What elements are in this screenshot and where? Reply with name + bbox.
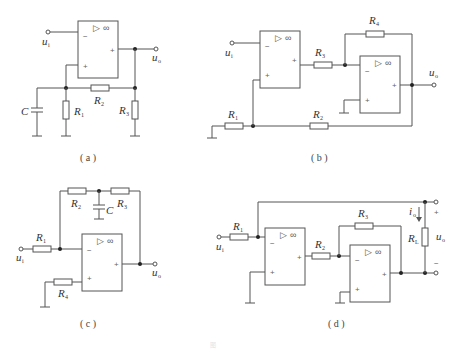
svg-text:1: 1 (43, 238, 46, 244)
svg-text:i: i (231, 53, 233, 59)
svg-text:+: + (434, 208, 439, 217)
panel-c: R 2 R 3 C R 1 u i ▷ ∞ − + + u o R 4 ( (16, 188, 161, 330)
label-r2-a: R (93, 94, 101, 106)
svg-text:∞: ∞ (385, 58, 391, 68)
panel-b: ▷ ∞ − + + u i R 3 R 4 ▷ ∞ − + + u (207, 14, 438, 164)
resistor-r2-c (68, 188, 86, 194)
circuit-figure: ▷ ∞ − + + u i u o R 2 C (0, 0, 456, 351)
label-r3-a: R (118, 104, 126, 116)
caption-d: ( d ) (328, 318, 345, 330)
svg-text:o: o (442, 237, 445, 243)
svg-text:o: o (158, 58, 161, 64)
svg-text:R: R (314, 238, 322, 250)
resistor-rl-d (422, 228, 428, 246)
resistor-r3-b (314, 62, 332, 68)
svg-text:−: − (365, 67, 370, 76)
current-arrow-icon (416, 217, 422, 222)
svg-text:−: − (265, 42, 270, 51)
svg-text:2: 2 (78, 204, 81, 210)
svg-text:+: + (265, 71, 270, 80)
input-terminal-b (230, 41, 234, 45)
figure-caption-faint: 图 (210, 342, 216, 349)
svg-text:▷: ▷ (97, 236, 104, 246)
svg-text:o: o (435, 73, 438, 79)
svg-text:i: i (409, 205, 412, 217)
input-terminal-d (217, 235, 221, 239)
svg-text:+: + (355, 285, 360, 294)
svg-text:o: o (158, 273, 161, 279)
svg-text:2: 2 (101, 101, 104, 107)
svg-text:i: i (222, 247, 224, 253)
svg-text:L: L (415, 239, 419, 245)
svg-text:▷: ▷ (375, 58, 382, 68)
svg-text:−: − (87, 246, 92, 255)
opamp-a-symbol: ▷ (93, 23, 100, 33)
svg-text:R: R (232, 220, 240, 232)
resistor-r4-c (54, 279, 72, 285)
resistor-r3-a (132, 101, 138, 119)
input-terminal-a (46, 30, 50, 34)
svg-text:R: R (116, 197, 124, 209)
svg-text:1: 1 (235, 115, 238, 121)
resistor-r3-d (355, 223, 373, 229)
svg-text:+: + (392, 81, 397, 90)
svg-text:+: + (292, 56, 297, 65)
svg-text:R: R (35, 231, 43, 243)
label-c-c: C (106, 204, 114, 216)
svg-text:∞: ∞ (285, 33, 291, 43)
opamp-a-gain: ∞ (103, 23, 109, 33)
svg-text:2: 2 (322, 245, 325, 251)
output-terminal-b (432, 83, 436, 87)
caption-c: ( c ) (80, 318, 96, 330)
resistor-r1-b (225, 123, 243, 129)
output-plus-terminal-d (434, 200, 438, 204)
svg-text:1: 1 (240, 227, 243, 233)
resistor-r3-c (111, 188, 129, 194)
panel-a: ▷ ∞ − + + u i u o R 2 C (21, 21, 161, 164)
svg-text:R: R (314, 46, 322, 58)
resistor-r2-a (91, 85, 109, 91)
svg-text:4: 4 (65, 294, 68, 300)
resistor-r1-c (33, 246, 51, 252)
svg-text:2: 2 (320, 115, 323, 121)
opamp-a-out-sign: + (110, 46, 115, 55)
output-minus-terminal-d (434, 271, 438, 275)
svg-text:o: o (413, 212, 416, 218)
svg-text:+: + (87, 274, 92, 283)
svg-text:3: 3 (322, 53, 325, 59)
resistor-r1-d (230, 234, 248, 240)
svg-text:R: R (357, 207, 365, 219)
svg-text:4: 4 (376, 21, 379, 27)
label-r1-a: R (73, 105, 81, 117)
svg-text:R: R (407, 232, 415, 244)
opamp-a-minus: − (83, 32, 88, 41)
svg-text:R: R (227, 108, 235, 120)
svg-text:▷: ▷ (275, 33, 282, 43)
svg-text:+: + (382, 270, 387, 279)
caption-a: ( a ) (80, 152, 96, 164)
caption-b: ( b ) (311, 152, 328, 164)
svg-text:1: 1 (81, 112, 84, 118)
svg-text:R: R (70, 197, 78, 209)
svg-text:∞: ∞ (290, 230, 296, 240)
svg-text:−: − (270, 239, 275, 248)
svg-text:▷: ▷ (280, 230, 287, 240)
svg-text:R: R (368, 14, 376, 26)
opamp-a-plus: + (83, 62, 88, 71)
resistor-r2-d (312, 253, 330, 259)
svg-text:R: R (57, 287, 65, 299)
svg-text:∞: ∞ (375, 247, 381, 257)
resistor-r2-b (310, 123, 328, 129)
svg-text:▷: ▷ (365, 247, 372, 257)
label-c-a: C (21, 105, 29, 117)
svg-text:∞: ∞ (107, 236, 113, 246)
svg-text:+: + (114, 260, 119, 269)
svg-text:+: + (270, 268, 275, 277)
panel-d: + R 1 u i ▷ ∞ − + + R 2 R 3 (216, 200, 445, 330)
svg-text:i: i (48, 42, 50, 48)
svg-text:3: 3 (365, 214, 368, 220)
svg-text:3: 3 (124, 204, 127, 210)
svg-text:3: 3 (126, 111, 129, 117)
svg-text:+: + (365, 96, 370, 105)
resistor-r1-a (63, 101, 69, 119)
